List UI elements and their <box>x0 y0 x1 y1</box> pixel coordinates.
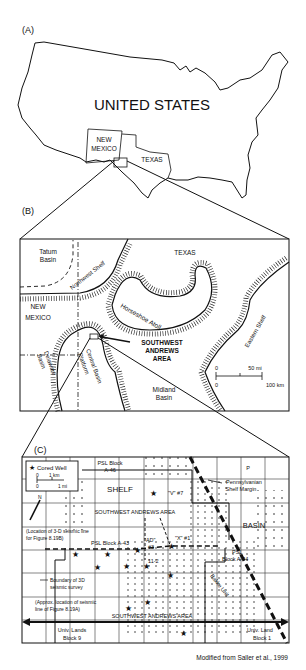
seismic-3d-label-1: (Location of 3-D seismic line <box>26 528 89 534</box>
panel-a-label: (A) <box>22 25 34 35</box>
stipple-zone <box>145 457 190 479</box>
star-icon: ★ <box>168 542 175 551</box>
us-label: UNITED STATES <box>94 96 210 113</box>
star-icon: ★ <box>167 571 174 580</box>
star-icon: ★ <box>123 562 130 571</box>
scale-zero-km: 0 <box>215 382 218 388</box>
star-icon: ★ <box>72 550 79 559</box>
star-icon: ★ <box>29 464 35 471</box>
psl-a43-label: PSL Block A-43 <box>91 540 129 546</box>
legend-cored-well: Cored Well <box>37 465 67 471</box>
nm-label-2: MEXICO <box>25 314 51 321</box>
study-area-box <box>90 334 98 339</box>
univ9-label-1: Univ. Lands <box>58 627 87 633</box>
stipple-zone <box>190 480 230 540</box>
basin-label: BASIN <box>243 521 266 530</box>
nm-label-1: NEW <box>30 303 46 310</box>
well-v7-label: "V" #7 <box>168 490 183 496</box>
panel-a: (A) UNITED STATES NEW MEXICO TEXAS <box>18 25 288 198</box>
star-icon: ★ <box>125 604 132 613</box>
swa-top-label: SOUTHWEST ANDREWS AREA <box>95 509 176 515</box>
us-outline <box>18 42 288 198</box>
legend: ★ Cored Well 0 1 km 0 1 mi <box>26 461 78 491</box>
scale-zero-mi: 0 <box>215 365 218 371</box>
seismic-3d-label-2: for Figure 8.19B) <box>26 535 64 541</box>
tx-label: TEXAS <box>141 156 163 163</box>
tatum-label-1: Tatum <box>39 248 57 255</box>
margin-label-1: Pennsylvanian <box>226 479 262 485</box>
margin-label-2: Shelf Margin <box>226 486 257 492</box>
psl-a44-label-1: PSL <box>232 549 242 555</box>
panel-c: (C) <box>22 445 289 643</box>
well-x1-label: "X" #1 <box>175 535 190 541</box>
univ1-label-2: Block 1 <box>253 635 271 641</box>
panel-b: (B) Tatum Basin TEXAS NEW MEXICO Northwe… <box>20 206 289 411</box>
swa-label-1: SOUTHWEST <box>141 339 183 346</box>
north-label: N <box>38 494 42 500</box>
star-icon: ★ <box>180 629 187 638</box>
swa-label-2: ANDREWS <box>145 347 179 354</box>
seismic-approx-label-1: (Approx. location of seismic <box>35 599 97 605</box>
boundary-label-2: seismic survey <box>50 584 83 590</box>
swa-label-3: AREA <box>153 355 172 362</box>
boundary-label-1: Boundary of 3D <box>50 577 85 583</box>
star-icon: ★ <box>143 562 150 571</box>
shelf-label: SHELF <box>107 485 133 494</box>
legend-zero-km: 0 <box>36 473 39 478</box>
univ9-label-2: Block 9 <box>63 635 81 641</box>
connector-ab-left <box>20 161 114 239</box>
univ1-label-1: Univ. Land <box>247 627 273 633</box>
legend-mi: 1 mi <box>58 484 67 489</box>
star-icon: ★ <box>94 563 101 572</box>
psl-a44-label-2: Block A-44 <box>222 556 248 562</box>
star-icon: ★ <box>144 598 151 607</box>
star-icon: ★ <box>104 550 111 559</box>
legend-km: 1 km <box>49 473 59 478</box>
figure-canvas: (A) UNITED STATES NEW MEXICO TEXAS (B) <box>0 0 306 670</box>
psl-a45-label: P <box>246 465 250 471</box>
well-ad-label: "AD" <box>144 537 156 543</box>
seismic-approx-label-2: line of Figure 8.19A) <box>35 606 80 612</box>
legend-zero-mi: 0 <box>36 484 39 489</box>
nm-label-2: MEXICO <box>91 145 117 152</box>
scale-mi: 50 mi <box>248 365 261 371</box>
texas-label: TEXAS <box>174 249 196 256</box>
psl-a46-label-2: A-46 <box>104 467 116 473</box>
scale-km: 100 km <box>266 382 284 388</box>
connector-ab-right <box>127 161 289 239</box>
star-icon: ★ <box>134 546 141 555</box>
midland-label-1: Midland <box>153 386 176 393</box>
swa-bottom-label: SOUTHWEST ANDREWS AREA <box>112 613 193 619</box>
midland-label-2: Basin <box>156 394 173 401</box>
nm-label-1: NEW <box>96 136 112 143</box>
star-icon: ★ <box>150 489 157 498</box>
credit-text: Modified from Saller et al., 1999 <box>196 654 288 661</box>
tatum-label-2: Basin <box>40 256 57 263</box>
well-ad3-label: #3 <box>148 544 154 550</box>
panel-c-label: (C) <box>34 445 47 455</box>
psl-a46-label-1: PSL Block <box>97 460 122 466</box>
panel-b-label: (B) <box>22 206 34 216</box>
stipple-zone <box>255 490 289 550</box>
